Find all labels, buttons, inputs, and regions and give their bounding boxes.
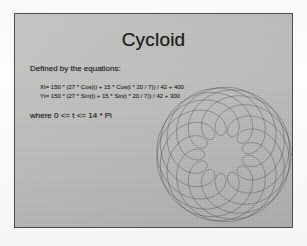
- page-title: Cycloid: [15, 29, 292, 51]
- domain-label: where 0 <= t <= 14 * Pi: [30, 111, 112, 121]
- cycloid-curve-path: [157, 87, 291, 221]
- cycloid-figure: [154, 80, 293, 228]
- presentation-slide: Cycloid Defined by the equations: Xt= 15…: [14, 13, 293, 228]
- cycloid-plot: [154, 80, 293, 228]
- equations-intro-label: Defined by the equations:: [30, 64, 121, 74]
- scanned-page: Cycloid Defined by the equations: Xt= 15…: [0, 0, 307, 246]
